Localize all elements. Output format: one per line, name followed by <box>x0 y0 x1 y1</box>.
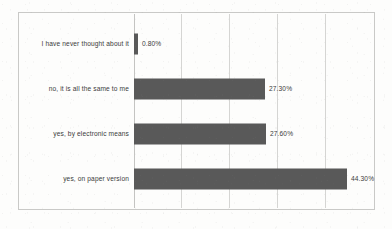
category-label: no, it is all the same to me <box>49 86 129 93</box>
value-label-1: 27.30% <box>269 86 292 93</box>
chart-page: I have never thought about it 0.80% no, … <box>0 0 392 229</box>
category-label: yes, on paper version <box>63 176 129 183</box>
value-label-3: 44.30% <box>351 176 374 183</box>
bar-2[interactable] <box>134 124 266 145</box>
category-label: I have never thought about it <box>42 41 129 48</box>
bar-1[interactable] <box>134 79 265 100</box>
value-label-0: 0.80% <box>142 41 161 48</box>
category-label: yes, by electronic means <box>53 131 129 138</box>
chart-frame: I have never thought about it 0.80% no, … <box>18 12 375 210</box>
bar-rows: I have never thought about it 0.80% no, … <box>134 14 373 208</box>
bar-0[interactable] <box>134 34 138 55</box>
value-label-2: 27.60% <box>270 131 293 138</box>
bar-row[interactable]: yes, on paper version 44.30% <box>134 157 373 201</box>
bar-row[interactable]: yes, by electronic means 27.60% <box>134 112 373 156</box>
bar-row[interactable]: no, it is all the same to me 27.30% <box>134 67 373 111</box>
bar-row[interactable]: I have never thought about it 0.80% <box>134 22 373 66</box>
bar-3[interactable] <box>134 169 347 190</box>
